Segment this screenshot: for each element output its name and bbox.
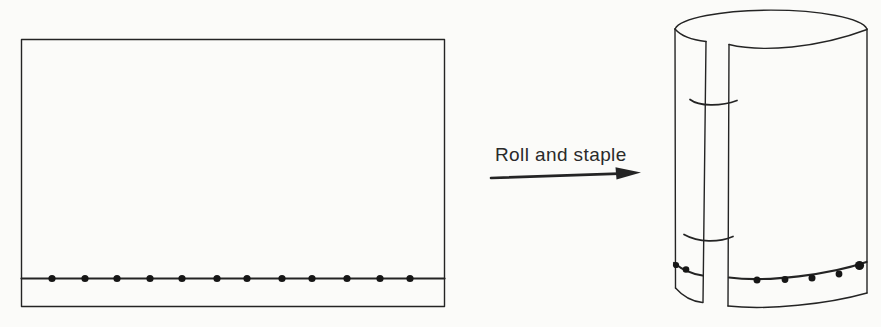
sheet-dot (213, 275, 220, 282)
staple-mark-bottom (684, 235, 733, 241)
sheet-dot (406, 275, 413, 282)
cylinder (673, 10, 867, 307)
sheet-dot (376, 275, 383, 282)
sheet-dot (178, 275, 185, 282)
cylinder-staple-line-right (729, 262, 867, 279)
flat-sheet (22, 40, 445, 307)
sheet-outline (22, 40, 445, 307)
cylinder-top-rim-near-right (729, 30, 867, 49)
sheet-dot (113, 275, 120, 282)
cylinder-top-rim-near-left (675, 29, 706, 42)
staple-mark-top (690, 100, 737, 105)
cylinder-top-rim-far (675, 10, 867, 29)
cylinder-dot (683, 266, 690, 273)
arrow-label: Roll and staple (495, 144, 627, 165)
figure-canvas: Roll and staple (0, 0, 881, 327)
cylinder-dot (673, 262, 679, 268)
seam-gap-left-edge (703, 42, 706, 303)
cylinder-bottom-rim-left (676, 288, 703, 303)
cylinder-dot (836, 271, 843, 278)
sheet-dot (308, 275, 315, 282)
cylinder-dot (782, 276, 789, 283)
sheet-dot (48, 275, 55, 282)
sheet-dot (146, 275, 153, 282)
arrow-shaft (491, 174, 619, 178)
cylinder-dot (855, 261, 864, 270)
roll-arrow: Roll and staple (491, 144, 641, 180)
cylinder-left-edge (675, 29, 676, 288)
sheet-dot (81, 275, 88, 282)
sheet-dot (243, 275, 250, 282)
cylinder-dot (809, 275, 816, 282)
seam-gap-right-edge (728, 45, 729, 307)
cylinder-dot (754, 277, 761, 284)
arrow-head-icon (616, 167, 642, 179)
cylinder-dots (673, 261, 864, 284)
sheet-dot (343, 275, 350, 282)
roll-and-staple-diagram: Roll and staple (0, 0, 881, 327)
cylinder-bottom-rim-right (728, 293, 867, 307)
sheet-dot (278, 275, 285, 282)
